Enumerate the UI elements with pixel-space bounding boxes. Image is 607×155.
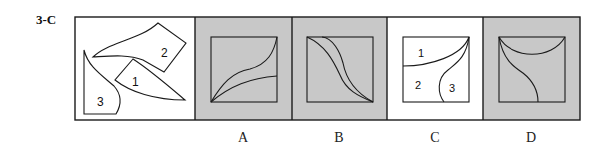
option-d-label[interactable]: D	[521, 130, 541, 146]
option-a-label[interactable]: A	[233, 130, 253, 146]
piece-3-label: 3	[97, 95, 104, 109]
option-c-region-1-label: 1	[418, 47, 424, 59]
option-c-label[interactable]: C	[425, 130, 445, 146]
option-b-label[interactable]: B	[329, 130, 349, 146]
option-c-region-2-label: 2	[415, 79, 421, 91]
piece-2-label: 2	[161, 46, 168, 60]
piece-1-label: 1	[132, 75, 139, 89]
option-c-region-3-label: 3	[449, 82, 455, 94]
puzzle-figure: 2 1 3 1 2 3	[0, 0, 607, 155]
